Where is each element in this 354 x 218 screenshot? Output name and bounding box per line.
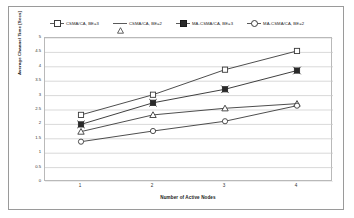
legend-item-0[interactable]: CSMA/CA, BE=3 — [50, 21, 99, 26]
plot-canvas — [45, 38, 333, 182]
y-tick-label: 4.5 — [23, 48, 41, 54]
data-point — [293, 67, 301, 75]
legend-label-3: MA-CSMA/CA, BE=2 — [263, 21, 304, 26]
x-tick-label: 1 — [68, 183, 92, 188]
legend-line-1 — [113, 23, 127, 24]
y-axis-title: Average Channel Time [Secs] — [13, 0, 25, 115]
x-axis-title: Number of Active Nodes — [44, 195, 332, 200]
data-point — [149, 99, 157, 107]
data-point — [77, 121, 85, 129]
y-tick-label: 3 — [23, 92, 41, 98]
data-point — [78, 112, 83, 117]
legend-label-1: CSMA/CA, BE=2 — [129, 21, 162, 26]
square-filled-icon — [180, 20, 187, 27]
data-point — [222, 67, 227, 72]
chart-frame: CSMA/CA, BE=3 CSMA/CA, BE=2 MA-CSMA/CA, … — [8, 6, 344, 210]
x-tick-label: 2 — [140, 183, 164, 188]
y-tick-label: 0 — [23, 178, 41, 184]
legend-item-1[interactable]: CSMA/CA, BE=2 — [113, 21, 162, 26]
legend-line-3 — [247, 23, 261, 24]
y-tick-label: 1.5 — [23, 135, 41, 141]
y-tick-label: 3.5 — [23, 77, 41, 83]
x-tick-label: 4 — [284, 183, 308, 188]
y-tick-label: 1 — [23, 149, 41, 155]
data-point — [150, 128, 155, 133]
y-tick-label: 2 — [23, 120, 41, 126]
data-point — [150, 92, 155, 97]
data-point — [221, 85, 229, 93]
chart-legend: CSMA/CA, BE=3 CSMA/CA, BE=2 MA-CSMA/CA, … — [9, 15, 345, 31]
legend-line-0 — [50, 23, 64, 24]
x-tick-label: 3 — [212, 183, 236, 188]
legend-item-3[interactable]: MA-CSMA/CA, BE=2 — [247, 21, 304, 26]
legend-line-2 — [176, 23, 190, 24]
legend-item-2[interactable]: MA-CSMA/CA, BE=3 — [176, 21, 233, 26]
data-point — [78, 139, 83, 144]
y-tick-label: 0.5 — [23, 164, 41, 170]
y-tick-label: 2.5 — [23, 106, 41, 112]
legend-label-2: MA-CSMA/CA, BE=3 — [192, 21, 233, 26]
triangle-open-icon — [117, 20, 124, 27]
plot-area — [44, 37, 332, 181]
data-point — [222, 119, 227, 124]
y-tick-label: 4 — [23, 63, 41, 69]
data-point — [294, 48, 299, 53]
circle-open-icon — [251, 20, 258, 27]
square-open-icon — [54, 20, 61, 27]
legend-label-0: CSMA/CA, BE=3 — [66, 21, 99, 26]
data-point — [294, 103, 299, 108]
y-tick-label: 5 — [23, 34, 41, 40]
